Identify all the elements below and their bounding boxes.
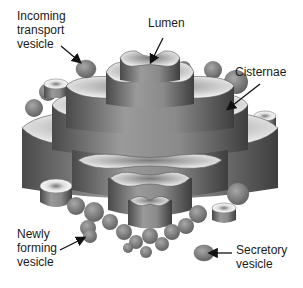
newly-forming-arrow	[60, 238, 84, 250]
incoming-transport-vesicle	[76, 60, 96, 78]
cisterna-top	[120, 51, 180, 83]
label-line: vesicle	[17, 37, 66, 51]
label-line: transport	[17, 23, 66, 37]
label-line: Secretory	[236, 243, 287, 257]
newly-forming-vesicle	[83, 229, 97, 243]
label-line: Incoming	[17, 9, 66, 23]
label-line: vesicle	[236, 257, 287, 271]
label-line: Lumen	[148, 16, 185, 30]
label-incoming-transport-vesicle: Incoming transport vesicle	[17, 9, 66, 51]
label-line: vesicle	[17, 255, 57, 269]
label-line: Cisternae	[235, 65, 286, 79]
label-lumen: Lumen	[148, 16, 185, 30]
label-newly-forming-vesicle: Newly forming vesicle	[17, 227, 57, 269]
label-secretory-vesicle: Secretory vesicle	[236, 243, 287, 271]
label-line: forming	[17, 241, 57, 255]
label-cisternae: Cisternae	[235, 65, 286, 79]
label-line: Newly	[17, 227, 57, 241]
